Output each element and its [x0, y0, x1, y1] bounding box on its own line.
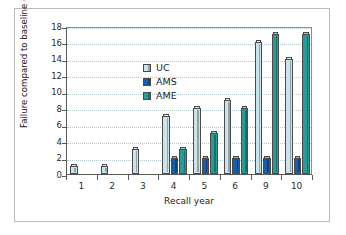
- y-axis-tick-label: 12: [51, 72, 62, 80]
- bar-group: [190, 28, 221, 174]
- x-axis-tick: [66, 175, 67, 180]
- x-axis-tick-label: 1: [79, 181, 85, 191]
- y-axis-tick: [62, 160, 67, 161]
- bar-ame: [302, 34, 310, 174]
- legend-label-ams: AMS: [156, 77, 177, 86]
- y-axis-tick: [62, 77, 67, 78]
- legend-swatch-ams: [143, 78, 151, 86]
- y-axis-tick-label: 10: [51, 88, 62, 96]
- x-axis-tick-label: 3: [140, 181, 146, 191]
- bar-uc: [255, 42, 263, 174]
- x-axis-title: Recall year: [66, 196, 312, 206]
- chart-legend: UC AMS AME: [143, 61, 177, 103]
- x-axis-tick-label: 5: [202, 181, 208, 191]
- y-axis-tick: [62, 127, 67, 128]
- x-axis-tick: [158, 175, 159, 180]
- bar-group: [98, 28, 129, 174]
- x-axis-tick-label: 10: [291, 181, 302, 191]
- bar-uc: [101, 166, 109, 174]
- x-axis-tick: [97, 175, 98, 180]
- bar-ams: [263, 158, 271, 174]
- x-axis-tick-label: 6: [232, 181, 238, 191]
- legend-item-ams: AMS: [143, 75, 177, 88]
- y-axis-title: Failure compared to baseline (%): [19, 0, 29, 137]
- bar-ams: [232, 158, 240, 174]
- bar-uc: [285, 59, 293, 174]
- legend-label-uc: UC: [156, 63, 170, 72]
- y-axis-tick-label: 4: [57, 138, 62, 146]
- legend-label-ame: AME: [156, 91, 177, 100]
- bar-ams: [294, 158, 302, 174]
- x-axis-tick: [312, 175, 313, 180]
- bar-group: [221, 28, 252, 174]
- bar-uc: [132, 149, 140, 174]
- y-axis-tick-label: 0: [57, 171, 62, 179]
- y-axis-labels: 024681012141618: [38, 27, 62, 175]
- bar-uc: [70, 166, 78, 174]
- y-axis-tick: [62, 110, 67, 111]
- y-axis-tick-label: 14: [51, 55, 62, 63]
- x-axis-tick: [251, 175, 252, 180]
- legend-item-uc: UC: [143, 61, 177, 74]
- legend-item-ame: AME: [143, 89, 177, 102]
- legend-swatch-ame: [143, 92, 151, 100]
- x-axis-tick: [281, 175, 282, 180]
- bar-ame: [272, 34, 280, 174]
- x-axis-tick: [189, 175, 190, 180]
- figure: Failure compared to baseline (%) 0246810…: [0, 0, 346, 235]
- bar-ame: [210, 133, 218, 174]
- bar-uc: [193, 108, 201, 174]
- y-axis-tick: [62, 143, 67, 144]
- y-axis-tick-label: 6: [57, 121, 62, 129]
- bar-group: [67, 28, 98, 174]
- bar-ame: [241, 108, 249, 174]
- y-axis-tick: [62, 44, 67, 45]
- x-axis-tick: [128, 175, 129, 180]
- bar-group: [282, 28, 313, 174]
- bar-uc: [224, 100, 232, 174]
- x-axis-tick-label: 9: [263, 181, 269, 191]
- y-axis-tick-label: 2: [57, 154, 62, 162]
- bar-group: [252, 28, 283, 174]
- bar-uc: [162, 116, 170, 174]
- y-axis-tick: [62, 94, 67, 95]
- y-axis-tick-label: 16: [51, 39, 62, 47]
- x-axis-tick: [220, 175, 221, 180]
- legend-swatch-uc: [143, 64, 151, 72]
- x-axis-tick-label: 4: [171, 181, 177, 191]
- y-axis-tick: [62, 61, 67, 62]
- y-axis-tick: [62, 28, 67, 29]
- y-axis-tick-label: 18: [51, 23, 62, 31]
- bar-ams: [202, 158, 210, 174]
- y-axis-tick-label: 8: [57, 105, 62, 113]
- x-axis-tick-label: 2: [109, 181, 115, 191]
- bar-ams: [171, 158, 179, 174]
- plot-area: UC AMS AME: [66, 27, 312, 175]
- bar-ame: [179, 149, 187, 174]
